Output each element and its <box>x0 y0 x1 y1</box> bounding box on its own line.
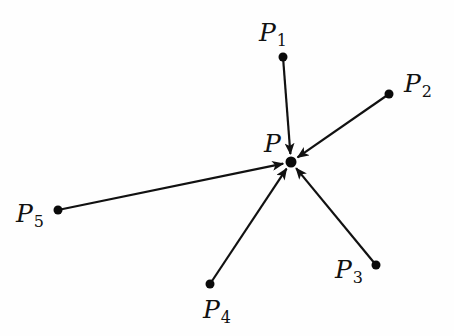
point-dot-p4 <box>206 280 215 289</box>
arrow-p1-to-p <box>283 57 290 154</box>
point-dot-p2 <box>385 90 394 99</box>
edges-group <box>58 57 389 284</box>
point-label-p5: P5 <box>15 199 44 231</box>
point-subscript: 2 <box>422 82 432 101</box>
vector-diagram: PP1P2P3P4P5 <box>0 0 454 336</box>
point-label-p4: P4 <box>202 295 231 327</box>
arrow-p5-to-p <box>58 164 283 210</box>
point-label-p: P <box>263 129 282 158</box>
point-dot-p3 <box>372 261 381 270</box>
point-dot-p5 <box>54 206 63 215</box>
point-dot-p <box>286 157 297 168</box>
point-subscript: 1 <box>277 31 287 50</box>
arrow-p2-to-p <box>298 94 389 157</box>
labels-group: PP1P2P3P4P5 <box>15 18 432 327</box>
point-subscript: 5 <box>34 212 44 231</box>
points-group <box>54 53 394 289</box>
arrow-p3-to-p <box>296 168 376 265</box>
point-subscript: 3 <box>353 268 363 287</box>
point-label-p2: P2 <box>403 69 432 101</box>
arrow-p4-to-p <box>210 169 287 284</box>
point-subscript: 4 <box>221 308 231 327</box>
point-dot-p1 <box>279 53 288 62</box>
diagram-canvas: PP1P2P3P4P5 <box>0 0 454 336</box>
point-label-p1: P1 <box>258 18 287 50</box>
point-label-p3: P3 <box>334 255 363 287</box>
